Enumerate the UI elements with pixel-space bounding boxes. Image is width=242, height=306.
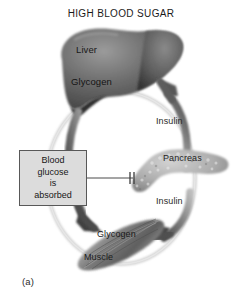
high-blood-sugar-diagram: HIGH BLOOD SUGAR Liver Glycogen Insulin … [0,0,242,306]
pancreas-label: Pancreas [163,153,202,163]
liver-organ [61,29,183,116]
blood-glucose-line-3: is [50,178,57,190]
glucose-connector [87,172,134,184]
liver-glycogen-label: Glycogen [71,76,112,87]
liver-label: Liver [76,44,97,55]
insulin-to-muscle-label: Insulin [156,196,183,206]
muscle-glycogen-label: Glycogen [97,229,136,239]
insulin-to-liver-label: Insulin [156,116,183,126]
blood-glucose-line-2: glucose [37,167,68,179]
page-title: HIGH BLOOD SUGAR [0,8,242,19]
blood-glucose-line-4: absorbed [34,190,72,202]
blood-glucose-box: Blood glucose is absorbed [19,150,87,206]
blood-glucose-line-1: Blood [41,155,64,167]
figure-caption: (a) [22,276,34,287]
muscle-label: Muscle [84,252,113,262]
